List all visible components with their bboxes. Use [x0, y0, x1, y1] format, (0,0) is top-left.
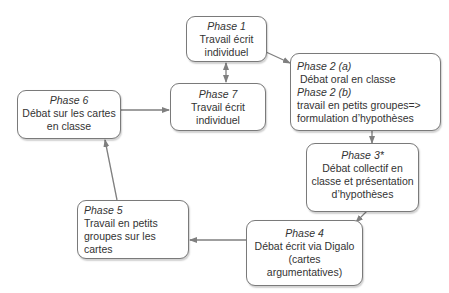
node-phase7: Phase 7 Travail écrit individuel: [170, 83, 266, 131]
node-text: Débat sur les cartes: [18, 107, 120, 120]
node-text: individuel: [187, 46, 266, 59]
node-text: Travail en petits: [84, 217, 188, 230]
arrow-phase5-to-phase6: [105, 140, 117, 200]
node-text: (cartes: [247, 253, 362, 266]
node-text: travail en petits groupes=>: [297, 99, 440, 112]
node-title: Phase 4: [247, 227, 362, 240]
node-text: Travail écrit: [171, 101, 265, 114]
node-text: classe et présentation: [307, 175, 418, 188]
node-phase3: Phase 3* Débat collectif en classe et pr…: [306, 143, 419, 212]
node-text: d’hypothèses: [307, 188, 418, 201]
node-title: Phase 6: [18, 94, 120, 107]
node-title: Phase 2 (b): [297, 86, 440, 99]
node-text: argumentatives): [247, 266, 362, 279]
node-phase2: Phase 2 (a) Débat oral en classe Phase 2…: [290, 53, 441, 131]
node-text: en classe: [18, 120, 120, 133]
node-text: Travail écrit: [187, 33, 266, 46]
node-text: Débat collectif en: [307, 162, 418, 175]
node-text: Débat oral en classe: [297, 73, 440, 86]
node-title: Phase 2 (a): [297, 60, 440, 73]
node-phase5: Phase 5 Travail en petits groupes sur le…: [77, 200, 189, 259]
node-text: Débat écrit via Digalo: [247, 240, 362, 253]
arrow-phase1-to-phase2: [266, 52, 290, 63]
node-text: individuel: [171, 114, 265, 127]
node-phase4: Phase 4 Débat écrit via Digalo (cartes a…: [246, 220, 363, 286]
node-text: formulation d’hypothèses: [297, 112, 440, 125]
node-text: cartes: [84, 243, 188, 256]
node-text: groupes sur les: [84, 230, 188, 243]
node-phase6: Phase 6 Débat sur les cartes en classe: [17, 90, 121, 139]
node-title: Phase 7: [171, 88, 265, 101]
node-title: Phase 3*: [307, 149, 418, 162]
node-title: Phase 1: [187, 20, 266, 33]
node-title: Phase 5: [84, 204, 188, 217]
node-phase1: Phase 1 Travail écrit individuel: [186, 16, 267, 62]
